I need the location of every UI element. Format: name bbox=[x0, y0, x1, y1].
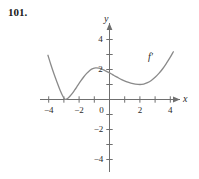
x-tick-label: −2 bbox=[71, 106, 87, 115]
origin-label: 0 bbox=[94, 106, 110, 115]
x-tick-label: 4 bbox=[162, 106, 178, 115]
axes bbox=[40, 23, 180, 172]
curve-label-f-prime: f′ bbox=[148, 52, 153, 62]
y-axis-label: y bbox=[104, 14, 108, 24]
x-axis-label: x bbox=[183, 94, 187, 104]
graph-figure bbox=[0, 0, 199, 179]
y-axis-arrowhead bbox=[107, 23, 113, 30]
y-tick-label: −2 bbox=[91, 125, 107, 134]
y-tick-label: 2 bbox=[93, 65, 109, 74]
x-axis-arrowhead bbox=[173, 97, 180, 103]
y-tick-label: 4 bbox=[93, 35, 109, 44]
y-tick-label: −4 bbox=[91, 155, 107, 164]
curve-f-prime bbox=[48, 52, 173, 100]
x-tick-label: 2 bbox=[132, 106, 148, 115]
curve-path bbox=[48, 52, 173, 100]
x-tick-label: −4 bbox=[41, 106, 57, 115]
